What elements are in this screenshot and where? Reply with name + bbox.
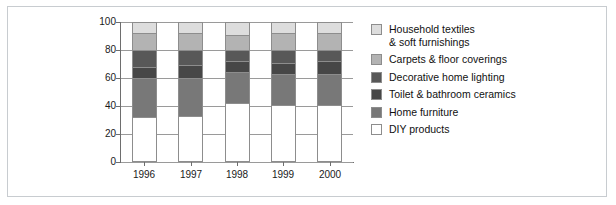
y-axis-tick-label: 20	[105, 129, 116, 139]
bar-segment	[132, 78, 157, 117]
y-axis-labels: 020406080100	[92, 22, 116, 162]
bar-segment	[271, 105, 296, 162]
y-axis-tick-mark	[116, 106, 121, 107]
y-axis-tick-mark	[116, 50, 121, 51]
bar-segment	[271, 50, 296, 63]
bar-segment	[132, 117, 157, 162]
x-axis-tick-label: 1996	[124, 169, 164, 180]
bar-segment	[178, 33, 203, 50]
y-axis-tick-label: 40	[105, 101, 116, 111]
bar-segment	[317, 105, 342, 162]
y-axis-tick-label: 100	[99, 17, 116, 27]
bar-segment	[225, 50, 250, 61]
x-axis-tick-mark	[144, 162, 145, 166]
bar-segment	[178, 65, 203, 78]
legend-item: Carpets & floor coverings	[371, 53, 601, 66]
bar-segment	[225, 35, 250, 50]
legend-item: Decorative home lighting	[371, 71, 601, 84]
x-axis-tick-label: 1998	[217, 169, 257, 180]
caption-sliver	[0, 0, 616, 4]
legend-item-label: Household textiles & soft furnishings	[389, 23, 475, 48]
legend-swatch-icon	[371, 24, 382, 35]
chart-figure: 020406080100 Household textiles & soft f…	[0, 0, 616, 205]
bar-segment	[317, 33, 342, 50]
x-axis-tick-mark	[237, 162, 238, 166]
bar-segment	[225, 22, 250, 35]
bar-segment	[225, 61, 250, 72]
y-axis-tick-mark	[116, 78, 121, 79]
bar-segment	[271, 22, 296, 33]
x-axis-tick-label: 2000	[310, 169, 350, 180]
bar-segment	[132, 33, 157, 50]
bar-segment	[225, 103, 250, 162]
legend-item-label: Toilet & bathroom ceramics	[389, 88, 516, 101]
legend-item: Home furniture	[371, 106, 601, 119]
y-axis-tick-mark	[116, 22, 121, 23]
x-axis-tick-label: 1997	[171, 169, 211, 180]
legend-swatch-icon	[371, 72, 382, 83]
legend-item-label: Decorative home lighting	[389, 71, 505, 84]
legend-swatch-icon	[371, 124, 382, 135]
bar-segment	[178, 116, 203, 162]
y-axis-tick-label: 60	[105, 73, 116, 83]
bar-segment	[132, 22, 157, 33]
x-axis-tick-mark	[330, 162, 331, 166]
legend-item-label: Home furniture	[389, 106, 458, 119]
bar-segment	[317, 22, 342, 33]
bar-1996	[132, 22, 157, 162]
y-axis-tick-mark	[116, 134, 121, 135]
bar-segment	[317, 50, 342, 61]
chart-legend: Household textiles & soft furnishingsCar…	[371, 23, 601, 141]
bar-1997	[178, 22, 203, 162]
bar-segment	[271, 74, 296, 105]
legend-item-label: Carpets & floor coverings	[389, 53, 507, 66]
bar-1999	[271, 22, 296, 162]
x-axis-tick-mark	[191, 162, 192, 166]
legend-swatch-icon	[371, 107, 382, 118]
bar-segment	[178, 78, 203, 116]
plot-area	[121, 22, 353, 162]
bar-segment	[317, 74, 342, 105]
bar-segment	[178, 50, 203, 65]
legend-item: DIY products	[371, 123, 601, 136]
y-axis-tick-label: 80	[105, 45, 116, 55]
y-axis-tick-mark	[116, 162, 121, 163]
bar-segment	[132, 67, 157, 78]
bar-1998	[225, 22, 250, 162]
legend-item: Toilet & bathroom ceramics	[371, 88, 601, 101]
bar-segment	[132, 50, 157, 67]
legend-item-label: DIY products	[389, 123, 450, 136]
legend-swatch-icon	[371, 54, 382, 65]
bar-segment	[271, 33, 296, 50]
bar-segment	[271, 63, 296, 74]
bar-segment	[225, 72, 250, 103]
bar-2000	[317, 22, 342, 162]
bar-segment	[178, 22, 203, 33]
legend-item: Household textiles & soft furnishings	[371, 23, 601, 48]
x-axis-tick-mark	[283, 162, 284, 166]
bar-segment	[317, 61, 342, 74]
legend-swatch-icon	[371, 89, 382, 100]
x-axis-tick-label: 1999	[263, 169, 303, 180]
